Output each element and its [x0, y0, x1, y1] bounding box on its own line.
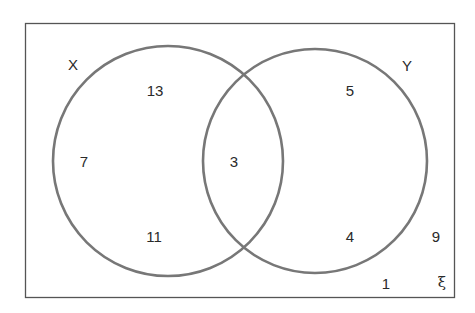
y-only-value-bottom: 4 [346, 228, 354, 245]
universal-set-symbol: ξ [438, 273, 446, 291]
x-only-value-left: 7 [80, 153, 88, 170]
y-only-value-top: 5 [346, 82, 354, 99]
set-x-label: X [68, 56, 78, 73]
intersection-value: 3 [230, 153, 238, 170]
outside-value-right: 9 [432, 228, 440, 245]
x-only-value-bottom: 11 [146, 228, 162, 245]
x-only-value-top: 13 [147, 82, 164, 99]
universal-set-border [26, 24, 455, 298]
set-y-label: Y [402, 57, 412, 74]
outside-value-bottom: 1 [382, 275, 390, 292]
